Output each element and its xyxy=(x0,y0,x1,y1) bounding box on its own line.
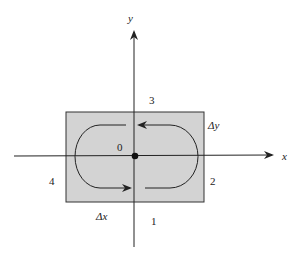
region-label-1: 1 xyxy=(151,216,157,227)
origin-point xyxy=(132,153,139,160)
x-axis xyxy=(14,155,272,156)
delta-y-label: Δy xyxy=(208,120,219,131)
region-label-2: 2 xyxy=(210,176,216,187)
y-axis-label: y xyxy=(128,13,133,24)
x-axis-label: x xyxy=(282,151,287,162)
diagram-canvas: y x 0 3 2 4 1 Δy Δx xyxy=(0,0,301,256)
delta-x-label: Δx xyxy=(96,211,107,222)
region-label-3: 3 xyxy=(149,95,155,106)
origin-label: 0 xyxy=(117,142,123,153)
region-label-4: 4 xyxy=(49,176,55,187)
